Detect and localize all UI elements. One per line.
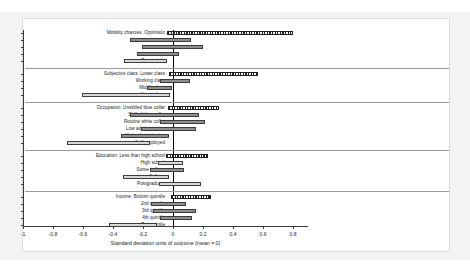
plot-area: Standard deviation units of outcome (mea… <box>23 19 451 253</box>
confidence-interval-bar <box>160 216 192 220</box>
confidence-interval-bar <box>147 86 173 90</box>
x-axis-line <box>23 226 308 227</box>
y-axis-tick <box>21 122 24 123</box>
group-separator <box>25 150 449 151</box>
x-axis-tick-label: -1 <box>8 231 38 237</box>
y-axis-tick <box>21 40 24 41</box>
y-axis-label: Occupation: Unskilled blue collar <box>97 105 165 110</box>
y-axis-tick <box>21 33 24 34</box>
y-axis-tick <box>21 115 24 116</box>
x-axis-tick-label: -0.6 <box>68 231 98 237</box>
group-separator <box>25 102 449 103</box>
confidence-interval-bar <box>109 223 157 227</box>
y-axis-tick <box>21 163 24 164</box>
y-axis-label: Subjective class: Lower class <box>104 71 165 76</box>
x-axis-tick <box>83 226 84 229</box>
y-axis-label: Income: Bottom quintile <box>116 194 165 199</box>
confidence-interval-bar <box>123 175 170 179</box>
y-axis-tick <box>21 204 24 205</box>
y-axis-tick <box>21 129 24 130</box>
y-axis-tick <box>21 197 24 198</box>
figure: Standard deviation units of outcome (mea… <box>0 0 470 275</box>
x-axis-tick <box>203 226 204 229</box>
group-separator <box>25 191 449 192</box>
y-axis-tick <box>21 61 24 62</box>
x-axis-tick <box>263 226 264 229</box>
x-axis-tick-label: 0.4 <box>218 231 248 237</box>
y-axis-tick <box>21 108 24 109</box>
x-axis-title: Standard deviation units of outcome (mea… <box>23 240 308 246</box>
confidence-interval-bar <box>160 120 205 124</box>
group-separator <box>25 68 449 69</box>
y-axis-tick <box>21 95 24 96</box>
y-axis-tick <box>21 54 24 55</box>
x-axis-tick-label: -0.4 <box>98 231 128 237</box>
confidence-interval-bar <box>159 182 201 186</box>
x-axis-tick-label: 0.8 <box>278 231 308 237</box>
confidence-interval-bar <box>158 161 183 165</box>
x-axis-tick-label: -0.2 <box>128 231 158 237</box>
confidence-interval-bar <box>124 59 168 63</box>
y-axis-tick <box>21 136 24 137</box>
confidence-interval-bar <box>171 195 212 199</box>
y-axis-tick <box>21 218 24 219</box>
confidence-interval-bar <box>168 106 219 110</box>
confidence-interval-bar <box>82 93 170 97</box>
confidence-interval-bar <box>142 45 204 49</box>
x-axis-tick <box>293 226 294 229</box>
confidence-interval-bar <box>121 134 168 138</box>
x-axis-tick-label: 0.2 <box>188 231 218 237</box>
confidence-interval-bar <box>130 113 200 117</box>
y-axis-tick <box>21 184 24 185</box>
confidence-interval-bar <box>67 141 150 145</box>
x-axis-tick <box>173 226 174 229</box>
confidence-interval-bar <box>151 202 186 206</box>
x-axis-tick-label: -0.8 <box>38 231 68 237</box>
y-axis-tick <box>21 81 24 82</box>
confidence-interval-bar <box>137 52 179 56</box>
x-axis-tick-label: 0 <box>158 231 188 237</box>
y-axis-tick <box>21 170 24 171</box>
x-axis-tick <box>113 226 114 229</box>
x-axis-tick <box>143 226 144 229</box>
confidence-interval-bar <box>130 38 192 42</box>
confidence-interval-bar <box>166 154 208 158</box>
y-axis-tick <box>21 143 24 144</box>
y-axis-tick <box>21 177 24 178</box>
x-axis-tick-label: 0.6 <box>248 231 278 237</box>
confidence-interval-bar <box>169 72 258 76</box>
x-axis-tick <box>53 226 54 229</box>
y-axis-tick <box>21 74 24 75</box>
confidence-interval-bar <box>160 79 191 83</box>
confidence-interval-bar <box>153 209 197 213</box>
chart-panel: Standard deviation units of outcome (mea… <box>22 18 450 252</box>
y-axis-label: Education: Less than high school <box>96 153 165 158</box>
x-axis-tick <box>23 226 24 229</box>
confidence-interval-bar <box>150 168 185 172</box>
y-axis-label: Routine white collar <box>124 119 165 124</box>
confidence-interval-bar <box>167 31 293 35</box>
y-axis-tick <box>21 88 24 89</box>
x-axis-tick <box>233 226 234 229</box>
y-axis-tick <box>21 211 24 212</box>
y-axis-tick <box>21 47 24 48</box>
confidence-interval-bar <box>141 127 197 131</box>
y-axis-tick <box>21 156 24 157</box>
y-axis-label: Mobility chances: Optimistic <box>107 30 165 35</box>
